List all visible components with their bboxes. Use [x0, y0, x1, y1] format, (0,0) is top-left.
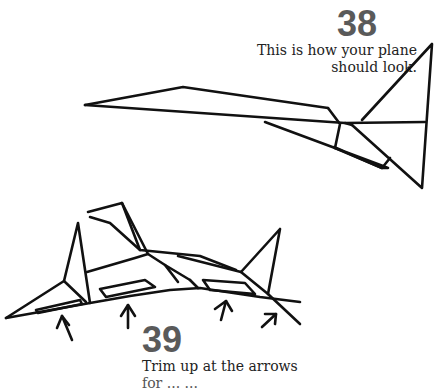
trim-arrow-icons [57, 301, 276, 340]
plane-rear-view-illustration [0, 0, 439, 388]
